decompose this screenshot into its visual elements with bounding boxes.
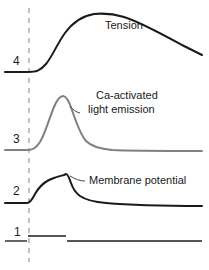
trace-plot-svg xyxy=(0,0,209,270)
ca-light-emission-label-line1: Ca-activated xyxy=(96,89,158,102)
axis-tick-label-1: 1 xyxy=(14,226,21,238)
tension-label: Tension xyxy=(105,19,143,32)
membrane-potential-leader-line xyxy=(70,176,85,181)
tension-trace xyxy=(5,14,202,72)
axis-tick-label-2: 2 xyxy=(13,185,20,197)
axis-tick-label-3: 3 xyxy=(13,133,20,145)
figure-canvas: 4 3 2 1 Tension Ca-activated light emiss… xyxy=(0,0,209,270)
axis-tick-label-4: 4 xyxy=(13,55,20,67)
ca-light-emission-label-line2: light emission xyxy=(88,103,155,116)
membrane-potential-label: Membrane potential xyxy=(89,174,186,187)
